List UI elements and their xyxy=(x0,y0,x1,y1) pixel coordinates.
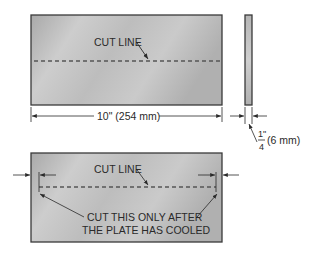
bottom-plate: CUT LINE CUT THIS ONLY AFTER THE PLATE H… xyxy=(13,153,239,242)
side-plate: 1" 4 (6 mm) xyxy=(230,15,300,152)
top-cut-line-label: CUT LINE xyxy=(94,36,142,48)
thickness-denominator: 4 xyxy=(259,142,264,152)
bottom-cut-line-label: CUT LINE xyxy=(94,163,142,175)
note-line2: THE PLATE HAS COOLED xyxy=(82,224,211,236)
width-dimension: 10" (254 mm) xyxy=(31,107,222,122)
top-plate: CUT LINE xyxy=(31,15,222,105)
width-dimension-label: 10" (254 mm) xyxy=(97,110,160,122)
thickness-numerator: 1" xyxy=(258,129,266,139)
cut-plate-diagram: CUT LINE 10" (254 mm) 1" 4 (6 mm) CUT LI… xyxy=(0,0,315,256)
note-line1: CUT THIS ONLY AFTER xyxy=(87,211,203,223)
thickness-metric: (6 mm) xyxy=(267,134,300,146)
